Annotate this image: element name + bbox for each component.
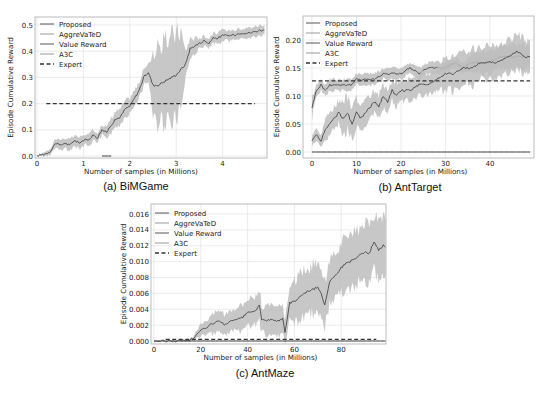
y-axis-label: Episode Cumulative Reward	[6, 37, 15, 138]
chart-anttarget: 0102030400.000.050.100.150.20Number of s…	[272, 16, 534, 193]
y-tick-label: 0.05	[285, 121, 301, 129]
legend-item: Value Reward	[155, 230, 222, 238]
x-axis-label: Number of samples (in Millions)	[204, 353, 318, 362]
legend-item: AggreVaTeD	[155, 220, 216, 228]
y-tick-label: 0.15	[285, 65, 301, 73]
legend-label: Expert	[325, 60, 348, 68]
chart-caption: (b) AntTarget	[379, 181, 442, 193]
legend-label: Proposed	[325, 20, 357, 28]
legend-item: Expert	[155, 250, 197, 258]
y-axis-label: Episode Cumulative Reward	[272, 37, 281, 138]
x-axis-label: Number of samples (in Millions)	[354, 167, 468, 176]
chart-bimgame: 012340.00.10.20.30.40.5Number of samples…	[6, 17, 267, 192]
legend-label: Expert	[59, 61, 82, 69]
y-tick-label: 0.0	[22, 153, 33, 161]
plot-area	[312, 32, 530, 153]
y-tick-label: 0.00	[285, 149, 301, 157]
legend-label: Expert	[174, 250, 197, 258]
legend-item: A3C	[306, 50, 339, 58]
legend-label: Value Reward	[174, 230, 222, 238]
legend-item: AggreVaTeD	[306, 30, 367, 38]
x-axis-label: Number of samples (in Millions)	[84, 167, 198, 176]
y-tick-label: 0.20	[285, 37, 301, 45]
legend-item: Value Reward	[40, 41, 107, 49]
legend-label: Proposed	[59, 21, 91, 29]
legend-item: Value Reward	[306, 40, 373, 48]
legend-label: AggreVaTeD	[59, 31, 101, 39]
y-tick-label: 0.10	[285, 93, 301, 101]
y-tick-label: 0.006	[129, 290, 150, 298]
y-tick-label: 0.008	[129, 274, 149, 282]
x-tick-label: 0	[310, 160, 314, 168]
legend: ProposedAggreVaTeDValue RewardA3CExpert	[155, 210, 222, 258]
x-tick-label: 4	[220, 160, 225, 168]
y-tick-label: 0.012	[129, 242, 149, 250]
legend-item: Proposed	[306, 20, 357, 28]
y-tick-label: 0.2	[22, 100, 33, 108]
legend-item: A3C	[40, 51, 73, 59]
y-tick-label: 0.010	[129, 258, 149, 266]
x-tick-label: 40	[486, 160, 495, 168]
y-tick-label: 0.4	[22, 48, 34, 56]
legend-item: AggreVaTeD	[40, 31, 101, 39]
x-tick-label: 80	[337, 346, 346, 354]
y-axis-label: Episode Cumulative Reward	[119, 224, 128, 325]
legend: ProposedAggreVaTeDValue RewardA3CExpert	[40, 21, 107, 69]
y-tick-label: 0.1	[22, 126, 33, 134]
chart-caption: (a) BiMGame	[103, 180, 168, 192]
legend-label: AggreVaTeD	[174, 220, 216, 228]
figure-canvas: 012340.00.10.20.30.40.5Number of samples…	[0, 0, 546, 393]
y-tick-label: 0.014	[129, 226, 150, 234]
y-tick-label: 0.5	[22, 22, 33, 30]
y-tick-label: 0.016	[129, 211, 150, 219]
legend-label: A3C	[59, 51, 73, 59]
y-tick-label: 0.004	[129, 306, 150, 314]
x-tick-label: 0	[152, 346, 156, 354]
legend-label: Proposed	[174, 210, 206, 218]
chart-caption: (c) AntMaze	[236, 367, 295, 379]
legend-item: A3C	[155, 240, 188, 248]
legend-label: A3C	[325, 50, 339, 58]
legend-label: Value Reward	[59, 41, 107, 49]
legend-item: Proposed	[40, 21, 91, 29]
legend: ProposedAggreVaTeDValue RewardA3CExpert	[306, 20, 373, 68]
y-tick-label: 0.3	[22, 74, 33, 82]
legend-label: Value Reward	[325, 40, 373, 48]
legend-label: A3C	[174, 240, 188, 248]
chart-antmaze: 0204060800.0000.0020.0040.0060.0080.0100…	[119, 204, 386, 379]
y-tick-label: 0.002	[129, 322, 149, 330]
x-tick-label: 0	[35, 160, 39, 168]
y-tick-label: 0.000	[129, 338, 149, 346]
legend-item: Expert	[40, 61, 82, 69]
legend-item: Proposed	[155, 210, 206, 218]
legend-label: AggreVaTeD	[325, 30, 367, 38]
